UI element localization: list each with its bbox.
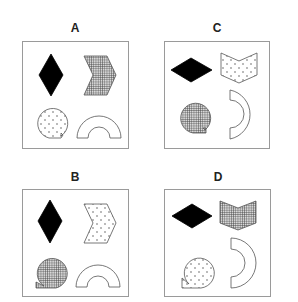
arch-shape	[77, 116, 121, 138]
chevron-shape	[221, 53, 257, 83]
option-panel-b[interactable]	[22, 189, 129, 297]
option-label-d: D	[203, 170, 233, 184]
tailed-circle-shape	[36, 258, 67, 288]
half-ring-shape	[230, 90, 250, 139]
chevron-shape	[84, 56, 116, 95]
option-d-shapes	[165, 190, 272, 298]
option-panel-c[interactable]	[164, 41, 270, 149]
tailed-circle-shape	[181, 103, 211, 133]
diamond-shape	[38, 200, 62, 243]
arch-shape	[76, 265, 120, 287]
half-ring-shape	[231, 238, 256, 288]
tailed-circle-shape	[182, 258, 214, 288]
option-panel-d[interactable]	[164, 189, 271, 297]
option-c-shapes	[165, 42, 271, 150]
option-panel-a[interactable]	[22, 41, 129, 149]
option-label-c: C	[202, 21, 232, 35]
chevron-shape	[220, 201, 256, 230]
tailed-circle-shape	[38, 108, 68, 138]
option-label-a: A	[60, 21, 90, 35]
diamond-shape	[39, 54, 63, 96]
diamond-shape	[172, 204, 212, 228]
option-b-shapes	[23, 190, 130, 298]
option-label-b: B	[60, 170, 90, 184]
option-a-shapes	[23, 42, 130, 150]
diamond-shape	[171, 58, 212, 82]
chevron-shape	[84, 204, 116, 243]
